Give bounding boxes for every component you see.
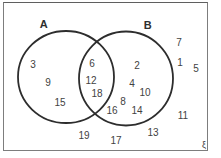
number-18-intersection: 18 [91,88,102,99]
universal-set-symbol: ξ [202,140,206,150]
number-15-a-only: 15 [54,97,65,108]
circle-a-outline [18,31,114,123]
set-a-label: A [40,18,48,30]
set-b-label: B [144,19,152,31]
number-16-b-only: 16 [106,105,117,116]
number-5-outside: 5 [193,63,199,74]
venn-diagram: A B ξ 39156121824108161471511131917 [0,0,221,158]
number-7-outside: 7 [176,37,182,48]
number-3-a-only: 3 [30,59,36,70]
number-11-outside: 11 [178,110,188,121]
number-12-intersection: 12 [85,75,96,86]
number-8-b-only: 8 [120,96,126,107]
number-6-intersection: 6 [89,58,95,69]
number-14-b-only: 14 [131,105,142,116]
number-1-outside: 1 [177,57,183,68]
number-17-outside: 17 [110,135,121,146]
number-9-a-only: 9 [45,77,51,88]
number-10-b-only: 10 [139,87,150,98]
number-2-b-only: 2 [134,60,140,71]
number-19-outside: 19 [78,130,89,141]
number-4-b-only: 4 [129,78,135,89]
number-13-outside: 13 [147,127,158,138]
